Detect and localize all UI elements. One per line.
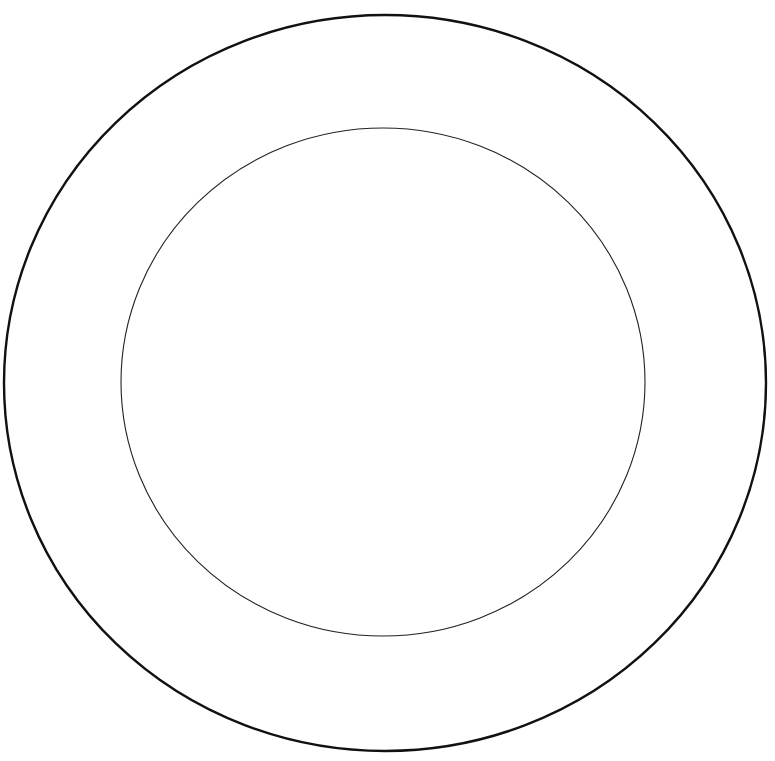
inner-well-circle xyxy=(121,128,645,636)
plate-outline-svg xyxy=(0,0,775,761)
outer-rim-circle xyxy=(4,15,766,751)
plate-drawing xyxy=(0,0,775,761)
